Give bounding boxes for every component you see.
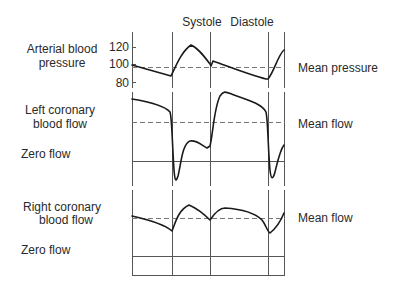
arterial-pressure-trace (132, 45, 284, 79)
left-coronary-trace (132, 92, 284, 180)
right-coronary-trace (132, 205, 284, 233)
coronary-flow-diagram (0, 0, 397, 292)
